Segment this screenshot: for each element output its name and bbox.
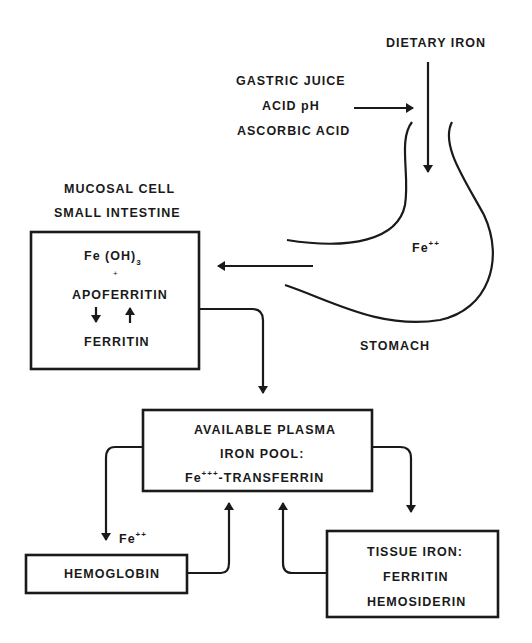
dietary-iron-label: DIETARY IRON — [386, 36, 486, 50]
tissue-line1: TISSUE IRON: — [367, 545, 463, 559]
acid-ph-label: ACID pH — [262, 99, 320, 113]
gastric-juice-label: GASTRIC JUICE — [236, 74, 346, 88]
plus-sign: + — [113, 269, 118, 278]
stomach-inner-wall — [287, 122, 412, 244]
plasma-to-tissue-arrow — [372, 447, 411, 512]
stomach-ion-label: Fe++ — [412, 239, 440, 255]
ferritin-label: FERRITIN — [84, 335, 150, 349]
stomach-outer-wall — [285, 122, 493, 322]
iron-hydroxide-label: Fe (OH)3 — [84, 249, 142, 267]
hemoglobin-ion-label: Fe++ — [119, 530, 147, 546]
hemoglobin-label: HEMOGLOBIN — [64, 567, 160, 581]
tissue-line2: FERRITIN — [383, 570, 449, 584]
plasma-line3: Fe+++-TRANSFERRIN — [185, 469, 324, 485]
apoferritin-label: APOFERRITIN — [72, 288, 168, 302]
plasma-to-hemoglobin-arrow — [106, 447, 143, 540]
tissue-line3: HEMOSIDERIN — [367, 595, 466, 609]
iron-metabolism-diagram: DIETARY IRON GASTRIC JUICE ACID pH ASCOR… — [0, 0, 532, 643]
stomach-label: STOMACH — [360, 339, 430, 353]
small-intestine-title: SMALL INTESTINE — [54, 206, 181, 220]
ascorbic-acid-label: ASCORBIC ACID — [237, 124, 350, 138]
mucosal-cell-title: MUCOSAL CELL — [64, 182, 175, 196]
hemoglobin-to-plasma-arrow — [187, 503, 229, 573]
plasma-line1: AVAILABLE PLASMA — [194, 423, 336, 437]
plasma-line2: IRON POOL: — [220, 447, 304, 461]
tissue-to-plasma-arrow — [283, 503, 327, 573]
mucosal-to-plasma-arrow — [199, 309, 263, 393]
